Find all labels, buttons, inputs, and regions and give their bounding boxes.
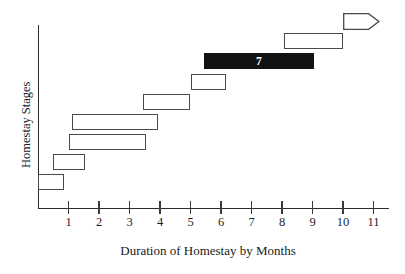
x-tick-label-1: 1 <box>58 215 80 229</box>
x-tick-5 <box>190 201 191 214</box>
gantt-bar-value-stage-7: 7 <box>256 55 262 67</box>
x-tick-label-4: 4 <box>149 215 171 229</box>
gantt-chart: 1234567891011 7 Homestay Stages Duration… <box>0 0 405 274</box>
x-tick-label-8: 8 <box>271 215 293 229</box>
x-axis-title: Duration of Homestay by Months <box>38 243 378 259</box>
x-tick-6 <box>220 201 221 214</box>
x-tick-label-11: 11 <box>363 215 385 229</box>
y-axis-title: Homestay Stages <box>18 38 34 168</box>
plot-area: 1234567891011 7 Homestay Stages Duration… <box>0 0 405 274</box>
x-tick-4 <box>159 201 160 214</box>
gantt-bar-stage-3 <box>69 134 147 150</box>
x-tick-label-2: 2 <box>88 215 110 229</box>
x-tick-2 <box>98 201 99 214</box>
gantt-bar-stage-8 <box>284 33 343 49</box>
x-tick-7 <box>251 201 252 214</box>
x-tick-10 <box>342 201 343 214</box>
x-tick-label-10: 10 <box>332 215 354 229</box>
gantt-bar-stage-4 <box>72 114 159 130</box>
x-tick-label-5: 5 <box>180 215 202 229</box>
gantt-bar-stage-7: 7 <box>204 53 314 69</box>
x-tick-9 <box>312 201 313 214</box>
x-tick-label-3: 3 <box>119 215 141 229</box>
x-tick-3 <box>129 201 130 214</box>
x-tick-8 <box>281 201 282 214</box>
x-tick-label-9: 9 <box>302 215 324 229</box>
gantt-bar-stage-1 <box>38 174 64 190</box>
gantt-bar-stage-6 <box>191 74 226 90</box>
gantt-bar-stage-9 <box>343 13 380 30</box>
x-tick-1 <box>68 201 69 214</box>
x-axis-line <box>38 208 389 209</box>
gantt-bar-stage-2 <box>53 154 85 170</box>
gantt-bar-stage-5 <box>143 94 190 110</box>
x-tick-label-7: 7 <box>241 215 263 229</box>
x-tick-label-6: 6 <box>210 215 232 229</box>
x-tick-11 <box>373 201 374 214</box>
